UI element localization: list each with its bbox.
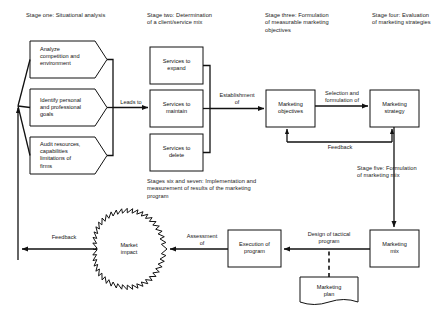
node-label-execution-of-program: Execution of program (228, 241, 281, 255)
edge-label-assessment-of: Assessment of (178, 233, 226, 247)
stage-heading-two: Stage two: Determination of a client/ser… (147, 12, 212, 27)
edge-label-establishment-of: Establishment of (209, 92, 265, 106)
stage-heading-one: Stage one: Situational analysis (26, 12, 105, 19)
node-label-marketing-mix: Marketing mix (370, 241, 419, 255)
node-label-identify-goals: Identify personal and professional goals (40, 97, 100, 119)
diagram-canvas: Stage one: Situational analysis Stage tw… (0, 0, 444, 319)
edge-pentagons-to-services (107, 60, 148, 156)
node-label-audit-resources: Audit resources, capabilities limitation… (40, 141, 100, 170)
node-label-market-impact: Market impact (107, 242, 151, 256)
node-label-services-expand: Services to expand (150, 58, 203, 72)
edge-label-selection-formulation: Selection and formulation of (314, 90, 370, 104)
edge-label-feedback-left: Feedback (40, 234, 88, 241)
edge-label-design-tactical-program: Design of tactical program (290, 231, 368, 245)
node-label-marketing-objectives: Marketing objectives (266, 101, 315, 115)
stage-heading-five: Stage five: Formulation of marketing mix (357, 165, 417, 180)
node-label-analyze-competition: Analyze competition and environment (40, 46, 100, 68)
node-label-marketing-strategy: Marketing strategy (370, 101, 419, 115)
edge-services-to-objectives (203, 66, 264, 153)
edge-label-leads-to: Leads to (113, 99, 149, 106)
node-label-services-delete: Services to delete (150, 145, 203, 159)
stage-heading-three: Stage three: Formulation of measurable m… (265, 12, 329, 34)
stage-heading-six-seven: Stages six and seven: Implementation and… (147, 178, 256, 200)
edge-label-feedback-objectives-strategy: Feedback (314, 144, 366, 151)
stage-heading-four: Stage four: Evaluation of marketing stra… (372, 12, 431, 27)
edge-feedback-objectives-strategy (287, 129, 392, 142)
edge-fan-in-left (18, 60, 30, 261)
node-label-marketing-plan: Marketing plan (300, 284, 358, 298)
node-label-services-maintain: Services to maintain (150, 101, 203, 115)
